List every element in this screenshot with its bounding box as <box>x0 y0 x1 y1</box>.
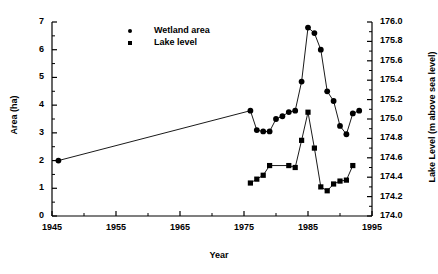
data-point-circle <box>254 127 260 133</box>
series-wetland-area <box>56 25 363 164</box>
legend-label: Wetland area <box>154 25 210 35</box>
legend-marker-square <box>128 41 132 45</box>
data-point-circle <box>305 25 311 31</box>
data-point-circle <box>286 109 292 115</box>
data-point-square <box>293 165 298 170</box>
data-point-circle <box>299 79 305 85</box>
y-axis-left-ticks <box>52 22 57 216</box>
data-point-square <box>248 180 253 185</box>
data-point-square <box>305 110 310 115</box>
data-point-square <box>299 138 304 143</box>
data-point-square <box>254 177 259 182</box>
legend-label: Lake level <box>154 37 197 47</box>
y-axis-right-ticks <box>367 22 372 216</box>
data-point-circle <box>248 108 254 114</box>
data-point-square <box>350 163 355 168</box>
x-axis-ticks <box>52 211 372 216</box>
axis-spines <box>52 22 372 216</box>
data-point-circle <box>260 129 266 135</box>
data-point-circle <box>292 108 298 114</box>
plot-area <box>0 0 438 274</box>
data-point-circle <box>312 30 318 36</box>
data-point-square <box>312 146 317 151</box>
data-point-square <box>325 188 330 193</box>
data-point-circle <box>337 123 343 129</box>
legend-marker-circle <box>128 29 132 33</box>
data-point-square <box>337 178 342 183</box>
data-point-circle <box>56 158 62 164</box>
data-point-square <box>267 163 272 168</box>
data-point-circle <box>318 47 324 53</box>
data-point-circle <box>324 88 330 94</box>
data-point-circle <box>267 129 273 135</box>
data-point-square <box>318 184 323 189</box>
data-point-square <box>331 181 336 186</box>
data-point-circle <box>350 111 356 117</box>
data-point-square <box>261 173 266 178</box>
data-point-circle <box>344 131 350 137</box>
chart-figure: Area (ha) Lake Level (m above sea level)… <box>0 0 438 274</box>
data-point-circle <box>331 98 337 104</box>
data-point-circle <box>273 116 279 122</box>
data-point-square <box>344 178 349 183</box>
data-point-circle <box>280 113 286 119</box>
data-point-square <box>286 163 291 168</box>
data-point-circle <box>356 108 362 114</box>
